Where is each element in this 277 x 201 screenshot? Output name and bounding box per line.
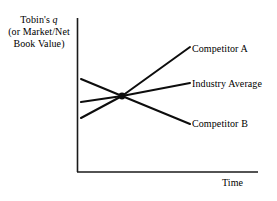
y-axis-label-line-3: Book Value): [4, 38, 74, 50]
series-line-competitor-a: [81, 47, 190, 96]
series-label-competitor-a: Competitor A: [192, 43, 248, 54]
y-axis-label-symbol-q: q: [53, 14, 58, 25]
y-axis-label-line-1: Tobin's q: [4, 14, 74, 26]
x-axis-label: Time: [222, 177, 243, 188]
y-axis-label-line-2: (or Market/Net: [4, 26, 74, 38]
series-label-competitor-b: Competitor B: [192, 118, 248, 129]
y-axis-label-prefix: Tobin's: [20, 14, 52, 25]
series-label-industry-average: Industry Average: [192, 78, 262, 89]
convergence-node-marker: [119, 93, 126, 100]
figure-container: Tobin's q (or Market/Net Book Value) Com…: [0, 0, 277, 201]
y-axis-label: Tobin's q (or Market/Net Book Value): [4, 14, 74, 51]
